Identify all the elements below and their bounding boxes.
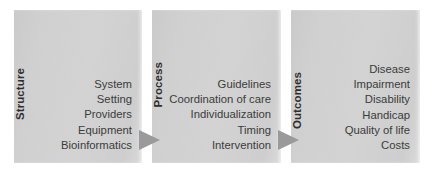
list-item: Setting <box>61 92 132 107</box>
list-item: System <box>61 77 132 92</box>
panel-process-items: Guidelines Coordination of care Individu… <box>169 77 271 153</box>
list-item: Providers <box>61 107 132 122</box>
list-item: Individualization <box>169 107 271 122</box>
list-item: Equipment <box>61 123 132 138</box>
list-item: Disease <box>345 62 410 77</box>
panel-structure-label: Structure <box>14 68 26 120</box>
list-item: Timing <box>169 123 271 138</box>
list-item: Quality of life <box>345 123 410 138</box>
list-item: Guidelines <box>169 77 271 92</box>
list-item: Handicap <box>345 108 410 123</box>
process-to-outcomes-arrow-icon <box>278 130 299 150</box>
list-item: Costs <box>345 138 410 153</box>
list-item: Impairment <box>345 77 410 92</box>
list-item: Intervention <box>169 138 271 153</box>
list-item: Coordination of care <box>169 92 271 107</box>
structure-to-process-arrow-icon <box>139 130 160 150</box>
panel-process-label: Process <box>152 62 164 107</box>
list-item: Disability <box>345 92 410 107</box>
panel-outcomes-label: Outcomes <box>291 72 303 129</box>
diagram-canvas: Structure Process Outcomes System Settin… <box>0 0 433 178</box>
list-item: Bioinformatics <box>61 138 132 153</box>
panel-structure-items: System Setting Providers Equipment Bioin… <box>61 77 132 153</box>
panel-outcomes-items: Disease Impairment Disability Handicap Q… <box>345 62 410 153</box>
